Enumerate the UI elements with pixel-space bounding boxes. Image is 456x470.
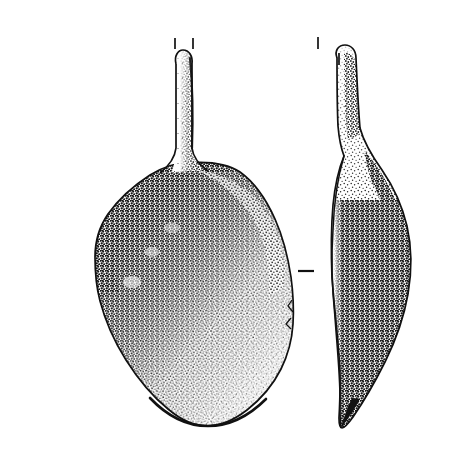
artifact-drawing-svg xyxy=(0,0,456,470)
bowl-reserved-spot-a xyxy=(123,276,141,288)
illustration-plate xyxy=(0,0,456,470)
bowl-reserved-spot-c xyxy=(164,223,180,233)
bowl-reserved-spot-b xyxy=(145,247,159,257)
